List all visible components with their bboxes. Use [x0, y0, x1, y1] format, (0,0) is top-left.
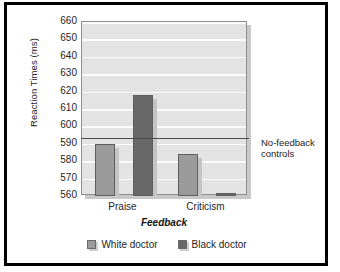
y-axis-tick-570: 570	[43, 173, 77, 183]
y-axis-tick-620: 620	[43, 86, 77, 96]
no-feedback-annotation-line2: controls	[261, 148, 339, 160]
legend-entry-black-doctor[interactable]: Black doctor	[178, 239, 247, 250]
plot-area	[81, 21, 247, 195]
gridline-610	[82, 109, 246, 111]
gridline-630	[82, 74, 246, 76]
y-axis-tick-580: 580	[43, 155, 77, 165]
gridline-600	[82, 126, 246, 128]
bar-chart: Reaction Times (ms) 66065064063062061060…	[7, 5, 325, 263]
gridline-660	[82, 22, 246, 24]
y-axis-tick-600: 600	[43, 120, 77, 130]
no-feedback-reference-line	[81, 138, 249, 140]
legend-label-white-doctor: White doctor	[101, 239, 157, 250]
bar-criticism-black-doctor[interactable]	[216, 193, 236, 196]
bar-praise-black-doctor[interactable]	[133, 95, 153, 196]
y-axis-tick-590: 590	[43, 138, 77, 148]
legend-entry-white-doctor[interactable]: White doctor	[87, 239, 157, 250]
figure-frame: Reaction Times (ms) 66065064063062061060…	[4, 2, 328, 266]
bar-criticism-white-doctor[interactable]	[178, 154, 198, 196]
y-axis-tick-630: 630	[43, 68, 77, 78]
y-axis-tick-650: 650	[43, 33, 77, 43]
y-axis-title: Reaction Times (ms)	[28, 13, 39, 153]
legend-swatch-black-doctor	[178, 240, 187, 249]
y-axis-tick-660: 660	[43, 16, 77, 26]
bar-praise-white-doctor[interactable]	[95, 144, 115, 196]
y-axis-tick-640: 640	[43, 51, 77, 61]
no-feedback-annotation-line1: No-feedback	[261, 137, 339, 149]
x-axis-tick-criticism: Criticism	[186, 201, 224, 212]
x-axis-title: Feedback	[81, 217, 247, 228]
x-axis-tick-praise: Praise	[108, 201, 136, 212]
gridline-640	[82, 57, 246, 59]
no-feedback-annotation-label: No-feedback controls	[261, 137, 339, 160]
legend-label-black-doctor: Black doctor	[192, 239, 247, 250]
legend: White doctorBlack doctor	[57, 239, 277, 250]
y-axis-tick-labels: 660650640630620610600590580570560	[43, 14, 77, 190]
gridline-620	[82, 92, 246, 94]
gridline-650	[82, 39, 246, 41]
y-axis-tick-560: 560	[43, 190, 77, 200]
legend-swatch-white-doctor	[87, 240, 96, 249]
y-axis-tick-610: 610	[43, 103, 77, 113]
